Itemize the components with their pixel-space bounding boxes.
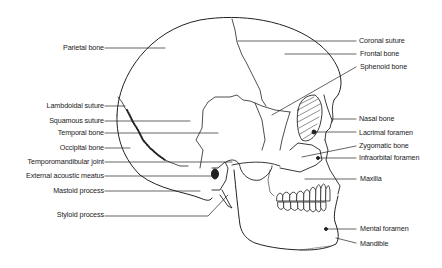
- right-leader-lines: [238, 41, 356, 243]
- infraorbital-foramen: [317, 157, 320, 160]
- zygomatic-bone: [280, 143, 322, 172]
- label-lacrimal-foramen: Lacrimal foramen: [359, 129, 413, 137]
- lacrimal-foramen: [312, 130, 316, 134]
- label-maxilla: Maxilla: [360, 175, 382, 183]
- lower-teeth: [278, 202, 326, 212]
- label-mandible: Mandible: [360, 240, 388, 248]
- label-temporal-bone: Temporal bone: [58, 129, 104, 137]
- nasal-bone: [324, 95, 332, 140]
- label-external-acoustic-meatus: External acoustic meatus: [26, 172, 104, 180]
- label-lambdoidal-suture: Lambdoidal suture: [47, 102, 104, 110]
- styloid-process: [220, 190, 232, 208]
- lambdoid-suture-serration: [127, 110, 165, 160]
- temporal-squama: [196, 95, 290, 168]
- orbit: [297, 95, 322, 141]
- label-zygomatic-bone: Zygomatic bone: [359, 142, 409, 150]
- label-sphenoid-bone: Sphenoid bone: [360, 63, 407, 71]
- label-squamous-suture: Squamous suture: [49, 117, 104, 125]
- label-parietal-bone: Parietal bone: [63, 44, 104, 52]
- label-styloid-process: Styloid process: [57, 211, 104, 219]
- left-leader-lines: [105, 48, 232, 216]
- lambdoid-suture: [118, 97, 188, 166]
- external-acoustic-meatus: [212, 169, 219, 179]
- skull-diagram: Parietal bone Lambdoidal suture Squamous…: [0, 0, 442, 268]
- upper-teeth: [277, 184, 330, 201]
- label-infraorbital-foramen: Infraorbital foramen: [359, 154, 419, 162]
- label-nasal-bone: Nasal bone: [359, 115, 394, 123]
- coronal-suture: [232, 19, 266, 106]
- label-temporomandibular-joint: Temporomandibular joint: [28, 158, 104, 166]
- label-coronal-suture: Coronal suture: [359, 37, 405, 45]
- label-mastoid-process: Mastoid process: [53, 187, 104, 195]
- occipital-outline: [117, 115, 212, 200]
- label-mental-foramen: Mental foramen: [360, 225, 409, 233]
- label-occipital-bone: Occipital bone: [60, 144, 104, 152]
- label-frontal-bone: Frontal bone: [360, 50, 399, 58]
